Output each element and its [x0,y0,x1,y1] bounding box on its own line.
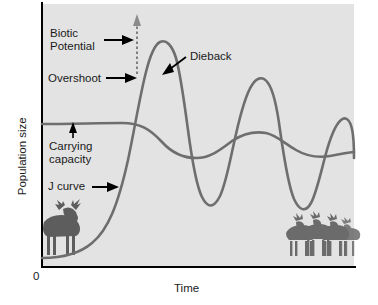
origin-label: 0 [33,270,39,283]
overshoot-label: Overshoot [48,72,101,85]
dieback-label: Dieback [190,50,232,63]
j-curve-label: J curve [48,180,85,193]
biotic-potential-line-2: Potential [50,40,95,52]
y-axis-label: Population size [16,101,29,211]
population-dynamics-figure: BioticPotential Overshoot Dieback Carryi… [0,0,378,305]
biotic-potential-line-1: Biotic [50,27,78,39]
x-axis-label: Time [174,282,199,295]
carrying-capacity-label: Carryingcapacity [49,140,92,165]
carrying-capacity-line-1: Carrying [49,140,92,152]
carrying-capacity-line-2: capacity [49,153,91,165]
biotic-potential-label: BioticPotential [50,27,95,52]
